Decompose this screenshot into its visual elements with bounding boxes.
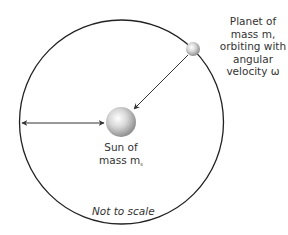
planet-label-line: Planet of <box>213 15 288 28</box>
planet-label: Planet of mass m, orbiting with angular … <box>213 15 288 78</box>
planet-label-line: angular <box>213 53 288 66</box>
gravity-force-arrow <box>134 55 188 109</box>
planet-label-line: orbiting with <box>213 40 288 53</box>
planet-sphere <box>186 42 200 56</box>
sun-label-line: Sun of <box>86 141 156 154</box>
sun-sphere <box>106 107 136 137</box>
sun-mass-subscript: s <box>140 161 143 167</box>
not-to-scale-note: Not to scale <box>92 205 155 217</box>
sun-mass-text: mass m <box>99 154 140 166</box>
planet-label-line: mass m, <box>213 28 288 41</box>
sun-label-line: mass ms <box>86 154 156 171</box>
planet-label-line: velocity ω <box>213 65 288 78</box>
sun-label: Sun of mass ms <box>86 141 156 170</box>
